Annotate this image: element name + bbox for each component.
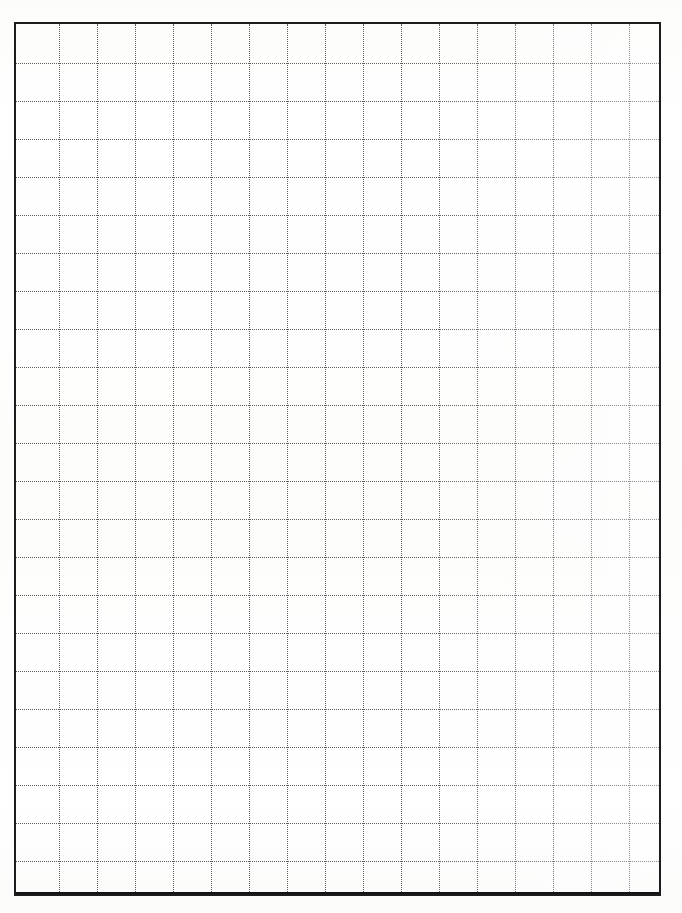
grid-line-horizontal	[16, 595, 659, 596]
grid-line-vertical	[249, 24, 250, 894]
grid-line-vertical	[59, 24, 60, 894]
grid-line-vertical	[287, 24, 288, 894]
grid-line-horizontal	[16, 215, 659, 216]
grid-line-vertical	[363, 24, 364, 894]
grid-line-horizontal	[16, 177, 659, 178]
grid-line-horizontal	[16, 291, 659, 292]
grid-line-vertical	[515, 24, 516, 894]
grid-line-vertical	[439, 24, 440, 894]
grid-line-horizontal	[16, 101, 659, 102]
grid-line-horizontal	[16, 405, 659, 406]
grid-line-vertical	[553, 24, 554, 894]
grid-line-vertical	[401, 24, 402, 894]
grid-line-horizontal	[16, 709, 659, 710]
grid-line-horizontal	[16, 823, 659, 824]
grid-line-vertical	[629, 24, 630, 894]
grid-line-vertical	[173, 24, 174, 894]
grid-line-vertical	[211, 24, 212, 894]
grid-line-vertical	[325, 24, 326, 894]
frame-bottom-edge	[16, 892, 659, 894]
grid-line-vertical	[97, 24, 98, 894]
grid-line-horizontal	[16, 633, 659, 634]
grid-line-vertical	[477, 24, 478, 894]
grid-line-horizontal	[16, 329, 659, 330]
grid-line-horizontal	[16, 671, 659, 672]
page-sheet	[0, 0, 682, 913]
grid-line-horizontal	[16, 63, 659, 64]
grid-line-horizontal	[16, 139, 659, 140]
grid-line-horizontal	[16, 519, 659, 520]
grid-line-horizontal	[16, 443, 659, 444]
grid-lines	[16, 24, 659, 894]
grid-fade-overlay	[16, 24, 659, 894]
grid-line-horizontal	[16, 785, 659, 786]
grid-line-horizontal	[16, 861, 659, 862]
grid-line-horizontal	[16, 481, 659, 482]
grid-line-horizontal	[16, 557, 659, 558]
grid-line-horizontal	[16, 367, 659, 368]
grid-line-vertical	[591, 24, 592, 894]
grid-border	[14, 22, 661, 896]
grid-line-horizontal	[16, 253, 659, 254]
grid-line-horizontal	[16, 747, 659, 748]
grid-line-vertical	[135, 24, 136, 894]
